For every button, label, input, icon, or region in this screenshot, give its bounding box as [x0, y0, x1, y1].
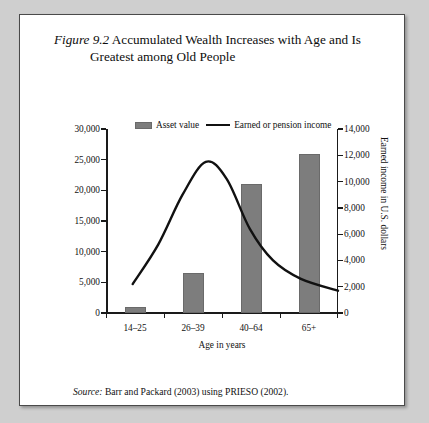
y-axis-left-tick [101, 282, 106, 283]
figure-panel: Figure 9.2 Accumulated Wealth Increases … [19, 14, 405, 406]
y-axis-left-tick-label: 30,000 [74, 124, 100, 134]
x-axis-tick [106, 313, 107, 318]
page-background: Figure 9.2 Accumulated Wealth Increases … [0, 0, 429, 423]
y-axis-right-tick [338, 181, 343, 182]
y-axis-left-tick [101, 128, 106, 129]
earned-income-curve [133, 161, 338, 290]
x-axis-category-label: 14–25 [123, 323, 146, 333]
y-axis-right-tick [338, 286, 343, 287]
y-axis-right-tick [338, 234, 343, 235]
x-axis-category-label: 40–64 [239, 323, 262, 333]
x-axis-tick [222, 313, 223, 318]
y-axis-left-tick [101, 190, 106, 191]
y-axis-left-tick-label: 0 [95, 308, 100, 318]
y-axis-left-tick-label: 10,000 [74, 247, 100, 257]
figure-title-line1: Accumulated Wealth Increases with Age an… [112, 32, 361, 47]
x-axis-category-label: 65+ [302, 323, 317, 333]
y-axis-right-tick-label: 12,000 [344, 150, 370, 160]
y-axis-left-tick-label: 15,000 [74, 216, 100, 226]
y-axis-right-tick [338, 207, 343, 208]
y-axis-right-tick-label: 2,000 [344, 282, 365, 292]
y-axis-right-labels: 02,0004,0006,0008,00010,00012,00014,000 [344, 129, 398, 313]
figure-source: Source: Barr and Packard (2003) using PR… [73, 386, 288, 397]
y-axis-left-tick-label: 5,000 [79, 277, 100, 287]
y-axis-right-tick-label: 6,000 [344, 229, 365, 239]
chart-axes: 05,00010,00015,00020,00025,00030,000 02,… [106, 129, 338, 313]
y-axis-right-tick [338, 312, 343, 313]
y-axis-left-labels: 05,00010,00015,00020,00025,00030,000 [54, 129, 100, 313]
y-axis-left-tick-label: 25,000 [74, 155, 100, 165]
y-axis-left-tick-label: 20,000 [74, 185, 100, 195]
chart-plot-area: 05,00010,00015,00020,00025,00030,000 02,… [106, 115, 338, 313]
y-axis-right-tick-label: 0 [344, 308, 349, 318]
y-axis-right-tick-label: 4,000 [344, 255, 365, 265]
source-text: Barr and Packard (2003) using PRIESO (20… [105, 386, 289, 397]
source-prefix: Source: [73, 386, 102, 397]
x-axis-category-label: 26–39 [181, 323, 204, 333]
y-axis-left-tick [101, 312, 106, 313]
figure-number: Figure 9.2 [54, 32, 109, 47]
y-axis-right-tick [338, 260, 343, 261]
figure-title: Figure 9.2 Accumulated Wealth Increases … [54, 31, 376, 65]
line-series-earned-income [106, 129, 338, 313]
y-axis-right-tick [338, 155, 343, 156]
x-axis-title: Age in years [106, 340, 338, 350]
y-axis-left-tick [101, 159, 106, 160]
figure-title-line2: Greatest among Old People [54, 48, 376, 65]
x-axis-tick [337, 313, 338, 318]
y-axis-left-tick [101, 220, 106, 221]
x-axis-tick [280, 313, 281, 318]
y-axis-right-tick [338, 128, 343, 129]
y-axis-right-tick-label: 10,000 [344, 177, 370, 187]
y-axis-left-tick [101, 251, 106, 252]
x-axis-tick [164, 313, 165, 318]
y-axis-right-tick-label: 8,000 [344, 203, 365, 213]
y-axis-right-tick-label: 14,000 [344, 124, 370, 134]
